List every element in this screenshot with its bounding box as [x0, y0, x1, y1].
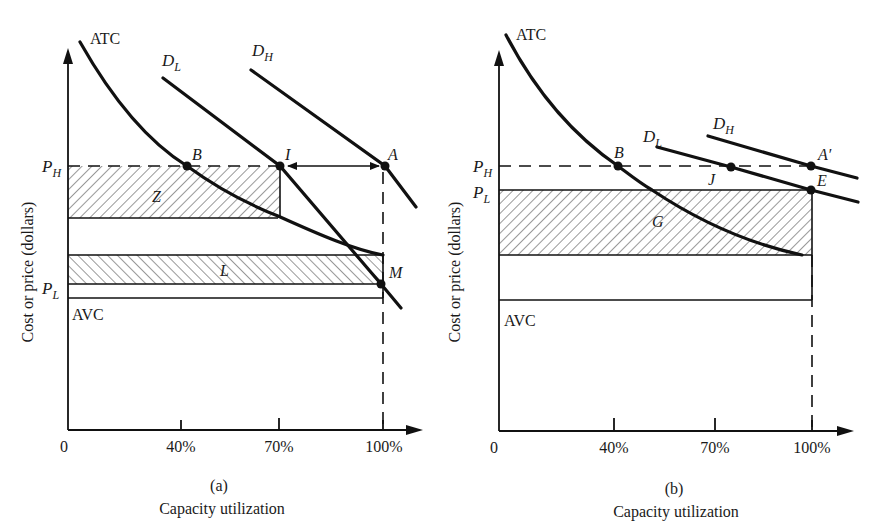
point-m-label: M — [388, 264, 404, 281]
point-i-label: I — [284, 146, 291, 163]
x-axis-arrow-icon — [406, 425, 423, 435]
panel-b: ATC DL DH B J A′ E G PH PL AVC Cost or p… — [446, 26, 858, 521]
x-axis-arrow-icon — [837, 426, 854, 436]
point-m — [377, 280, 386, 289]
atc-curve — [80, 42, 383, 255]
tick-label-40: 40% — [166, 438, 195, 455]
tick-label-70: 70% — [264, 438, 293, 455]
panel-a-caption: (a) — [210, 477, 228, 495]
ph-label: PH — [472, 157, 493, 180]
point-b-label: B — [192, 146, 202, 163]
dl-label: DL — [642, 127, 662, 150]
dh-label: DH — [712, 114, 735, 137]
point-b — [614, 162, 623, 171]
dl-label: DL — [161, 51, 181, 74]
point-i — [276, 162, 285, 171]
y-axis-label: Cost or price (dollars) — [19, 202, 37, 343]
panel-b-xlabel: Capacity utilization — [613, 503, 739, 521]
point-b-label: B — [614, 144, 624, 161]
panel-a: ATC DL DH B I A M Z L PH PL AVC Cost or … — [19, 30, 423, 518]
origin-label: 0 — [60, 438, 68, 455]
point-e — [807, 186, 816, 195]
y-axis-label: Cost or price (dollars) — [446, 202, 464, 343]
tick-label-40: 40% — [599, 439, 628, 456]
panel-b-caption: (b) — [665, 480, 684, 498]
ph-label: PH — [41, 157, 62, 180]
point-j — [727, 163, 736, 172]
point-b — [183, 162, 192, 171]
atc-label: ATC — [516, 26, 546, 43]
tick-label-70: 70% — [700, 439, 729, 456]
demand-high-curve — [708, 136, 857, 178]
avc-label: AVC — [504, 312, 536, 329]
y-axis-arrow-icon — [494, 50, 504, 66]
diagram-canvas: ATC DL DH B I A M Z L PH PL AVC Cost or … — [0, 0, 876, 532]
dh-label: DH — [251, 41, 274, 64]
point-a-label: A — [387, 146, 398, 163]
area-l-label: L — [219, 262, 229, 279]
tick-label-100: 100% — [365, 438, 402, 455]
origin-label: 0 — [490, 439, 498, 456]
point-a-prime — [807, 162, 816, 171]
tick-label-100: 100% — [793, 439, 830, 456]
point-e-label: E — [816, 172, 827, 189]
atc-label: ATC — [90, 30, 120, 47]
point-j-label: J — [708, 171, 716, 188]
area-z-label: Z — [152, 188, 162, 205]
area-g-label: G — [652, 213, 664, 230]
pl-label: PL — [472, 183, 490, 206]
avc-label: AVC — [72, 306, 104, 323]
point-a-prime-label: A′ — [817, 146, 832, 163]
y-axis-arrow-icon — [63, 48, 73, 64]
panel-a-xlabel: Capacity utilization — [159, 500, 285, 518]
pl-label: PL — [41, 279, 59, 302]
area-z — [68, 166, 280, 218]
